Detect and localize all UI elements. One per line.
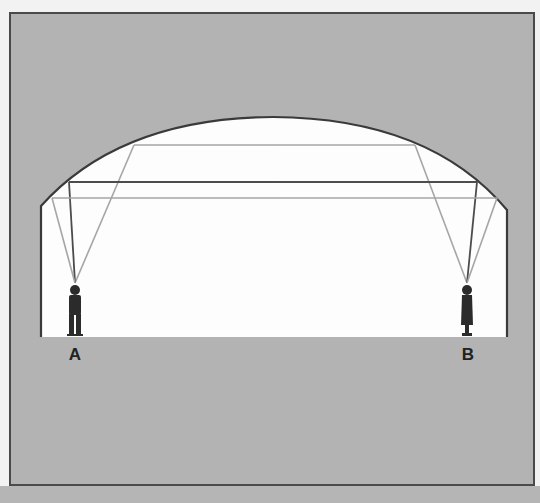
label-b: B [462, 345, 474, 365]
label-a: A [69, 345, 81, 365]
whispering-gallery-diagram [0, 0, 540, 503]
bottom-strip [0, 486, 540, 503]
